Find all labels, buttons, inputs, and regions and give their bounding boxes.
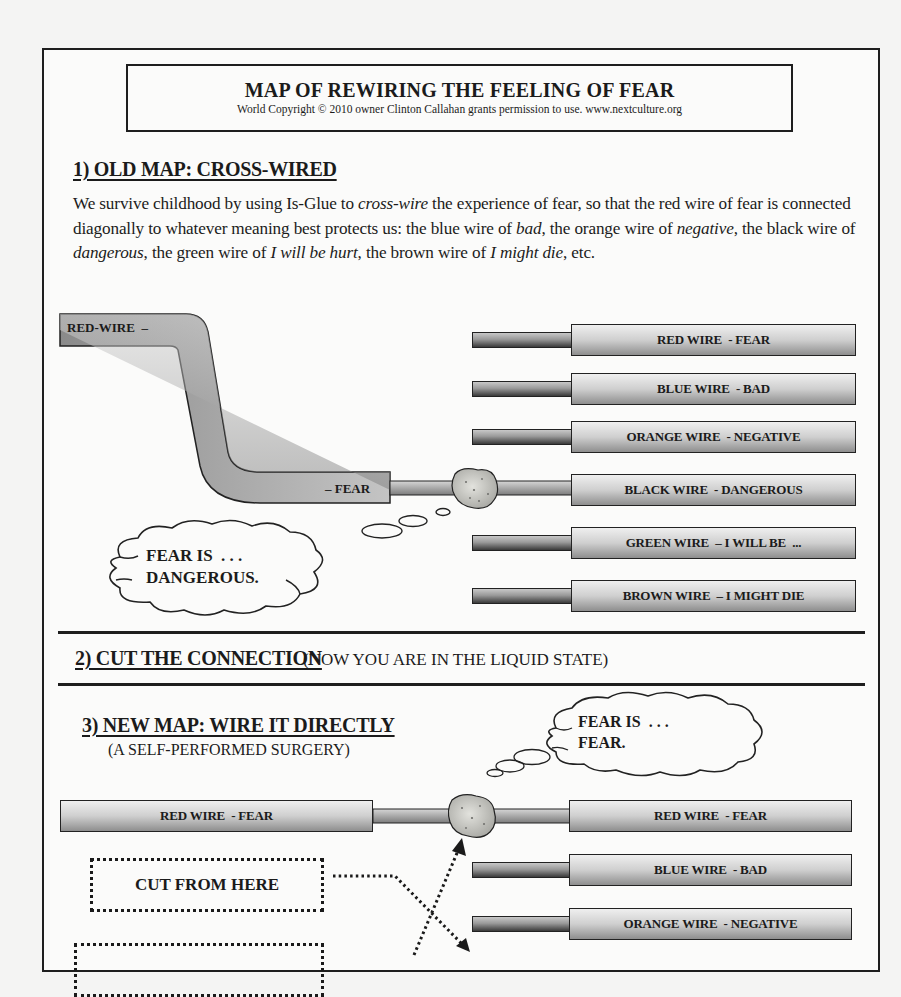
divider [58, 631, 865, 634]
bent-wire-end-label: – FEAR [325, 481, 370, 497]
wire-blue-bad: BLUE WIRE - BAD [571, 373, 856, 405]
is-glue-blob-new [448, 795, 495, 838]
section3-heading: 3) NEW MAP: WIRE IT DIRECTLY [82, 714, 395, 737]
wire-stub [472, 535, 573, 551]
wire-red-fear-left: RED WIRE - FEAR [60, 800, 373, 832]
section2-heading: 2) CUT THE CONNECTION [75, 647, 322, 670]
arrowhead-icon [456, 938, 470, 952]
cut-from-here-label: CUT FROM HERE [135, 875, 279, 895]
thought-text-new: FEAR IS . . . FEAR. [578, 711, 669, 753]
wire-red-fear: RED WIRE - FEAR [571, 324, 856, 356]
section2-note: (NOW YOU ARE IN THE LIQUID STATE) [303, 650, 608, 670]
wire-stub [472, 862, 571, 878]
wire-stub [472, 381, 573, 397]
wire-orange-negative: ORANGE WIRE - NEGATIVE [569, 908, 852, 940]
wire-red-fear-right: RED WIRE - FEAR [569, 800, 852, 832]
wire-brown-might-die: BROWN WIRE – I MIGHT DIE [571, 580, 856, 612]
cut-from-here-box: CUT FROM HERE [90, 858, 324, 912]
section3-subheading: (A SELF-PERFORMED SURGERY) [108, 741, 350, 759]
thought-text-old: FEAR IS . . . DANGEROUS. [146, 545, 259, 589]
bent-wire-start-label: RED-WIRE – [67, 320, 148, 336]
divider [58, 683, 865, 686]
wire-black-dangerous: BLACK WIRE - DANGEROUS [571, 474, 856, 506]
wire-green-will-be: GREEN WIRE – I WILL BE ... [571, 527, 856, 559]
wire-stub [472, 588, 573, 604]
wire-blue-bad: BLUE WIRE - BAD [569, 854, 852, 886]
arrowhead-icon [452, 838, 466, 856]
is-glue-blob [452, 469, 498, 509]
wire-stub [472, 916, 571, 932]
wire-stub [472, 429, 573, 445]
wire-orange-negative: ORANGE WIRE - NEGATIVE [571, 421, 856, 453]
wire-stub [472, 332, 573, 348]
second-dotted-box [74, 943, 324, 997]
